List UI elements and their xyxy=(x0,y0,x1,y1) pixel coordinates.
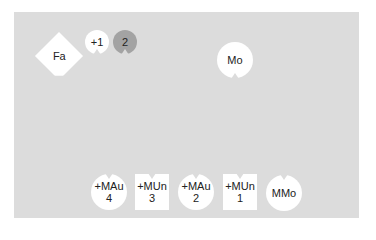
token-mau-2[interactable]: +MAu2 xyxy=(178,174,214,210)
token-mun-3[interactable]: +MUn3 xyxy=(135,174,169,210)
token-mo[interactable]: Mo xyxy=(217,42,253,78)
token-plus1[interactable]: +1 xyxy=(85,30,109,54)
token-fa-label: Fa xyxy=(53,50,66,62)
token-two-label: 2 xyxy=(122,36,128,48)
token-mo-label: Mo xyxy=(227,54,242,66)
token-mau-4-label: +MAu4 xyxy=(94,180,123,204)
token-mun-1[interactable]: +MUn1 xyxy=(223,174,257,210)
token-mau-2-label: +MAu2 xyxy=(181,180,210,204)
token-mmo[interactable]: MMo xyxy=(266,175,302,211)
token-mmo-label: MMo xyxy=(272,187,296,199)
token-mun-1-label: +MUn1 xyxy=(225,180,255,204)
token-plus1-label: +1 xyxy=(91,36,104,48)
token-mau-4[interactable]: +MAu4 xyxy=(91,174,127,210)
token-two[interactable]: 2 xyxy=(113,30,137,54)
token-mun-3-label: +MUn3 xyxy=(137,180,167,204)
